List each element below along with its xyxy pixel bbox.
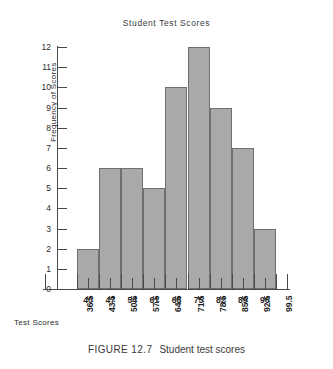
x-boundary-label: 57.5 bbox=[151, 295, 161, 312]
x-boundary-tick bbox=[165, 274, 166, 290]
x-boundary-label: 99.5 bbox=[284, 295, 294, 312]
x-boundary-label: 85.5 bbox=[240, 295, 250, 312]
histogram-bar bbox=[165, 87, 187, 289]
y-tick-label: 4 bbox=[46, 203, 51, 213]
x-midpoint-tick bbox=[221, 278, 222, 290]
x-boundary-label: 92.5 bbox=[262, 295, 272, 312]
x-boundary-tick bbox=[232, 274, 233, 290]
histogram-bar bbox=[188, 47, 210, 289]
x-boundary-tick bbox=[77, 274, 78, 290]
x-boundary-label: 78.5 bbox=[218, 295, 228, 312]
x-boundary-tick bbox=[276, 274, 277, 290]
x-midpoint-tick bbox=[110, 278, 111, 290]
y-tick-label: 2 bbox=[46, 244, 51, 254]
x-boundary-tick bbox=[143, 274, 144, 290]
x-midpoint-tick bbox=[199, 278, 200, 290]
x-midpoint-tick bbox=[88, 278, 89, 290]
figure-root: Student Test Scores 0123456789101112 404… bbox=[0, 0, 333, 369]
x-boundary-tick bbox=[99, 274, 100, 290]
x-axis-title: Test Scores bbox=[14, 318, 59, 327]
figure-caption: FIGURE 12.7Student test scores bbox=[0, 344, 333, 355]
x-boundary-tick bbox=[210, 274, 211, 290]
figure-caption-text: Student test scores bbox=[159, 344, 245, 355]
x-flank-tick bbox=[287, 274, 288, 290]
figure-caption-number: FIGURE 12.7 bbox=[88, 344, 152, 355]
y-tick-label: 3 bbox=[46, 224, 51, 234]
x-boundary-label: 43.5 bbox=[107, 295, 117, 312]
x-midpoint-tick bbox=[265, 278, 266, 290]
y-tick-label: 1 bbox=[46, 264, 51, 274]
x-boundary-label: 71.5 bbox=[196, 295, 206, 312]
bars-layer bbox=[57, 46, 285, 290]
plot-area: 0123456789101112 404754616875828996 36.5… bbox=[57, 46, 285, 290]
histogram-bar bbox=[121, 168, 143, 289]
x-boundary-tick bbox=[121, 274, 122, 290]
x-boundary-label: 36.5 bbox=[85, 295, 95, 312]
x-flank-tick bbox=[45, 274, 46, 290]
histogram-bar bbox=[210, 108, 232, 290]
histogram-bar bbox=[99, 168, 121, 289]
y-tick-label: 0 bbox=[46, 284, 51, 294]
y-axis-title: Frequency of Scores bbox=[49, 22, 58, 142]
x-midpoint-tick bbox=[243, 278, 244, 290]
x-boundary-label: 64.5 bbox=[173, 295, 183, 312]
y-tick-label: 7 bbox=[46, 143, 51, 153]
y-tick-label: 5 bbox=[46, 183, 51, 193]
x-boundary-tick bbox=[188, 274, 189, 290]
x-boundary-label: 50.5 bbox=[129, 295, 139, 312]
x-boundary-tick bbox=[254, 274, 255, 290]
x-midpoint-tick bbox=[176, 278, 177, 290]
histogram-bar bbox=[143, 188, 165, 289]
histogram-bar bbox=[232, 148, 254, 289]
x-midpoint-tick bbox=[154, 278, 155, 290]
y-tick-label: 6 bbox=[46, 163, 51, 173]
x-midpoint-tick bbox=[132, 278, 133, 290]
